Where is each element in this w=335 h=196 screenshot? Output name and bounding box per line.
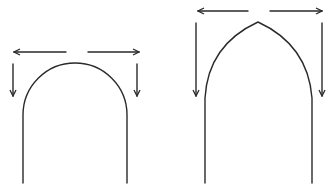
pointed-arch (196, 11, 322, 183)
round-arch (13, 52, 139, 183)
arch-diagram (0, 0, 335, 196)
diagram-svg (0, 0, 335, 196)
round-arch-outline (23, 63, 127, 183)
pointed-arch-outline (205, 22, 312, 183)
